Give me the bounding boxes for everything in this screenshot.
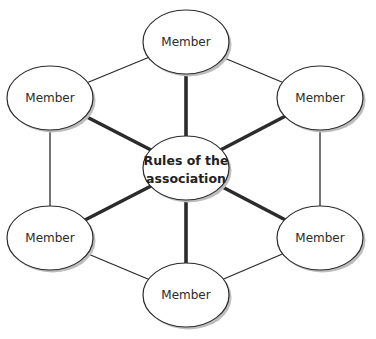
member-label: Member	[295, 231, 344, 245]
network-diagram: MemberMemberMemberMemberMemberMemberRule…	[0, 0, 376, 339]
rules-node: Rules of theassociation	[143, 136, 232, 203]
center-label-line: Rules of the	[144, 153, 229, 168]
nodes: MemberMemberMemberMemberMemberMemberRule…	[7, 10, 366, 330]
diagram-canvas: MemberMemberMemberMemberMemberMemberRule…	[0, 0, 376, 339]
member-label: Member	[161, 288, 210, 302]
member-node-bottom-left: Member	[7, 206, 96, 273]
member-label: Member	[295, 91, 344, 105]
member-label: Member	[25, 231, 74, 245]
member-node-top-right: Member	[277, 66, 366, 133]
member-node-bottom: Member	[143, 263, 232, 330]
center-label-line: association	[146, 171, 226, 186]
member-node-top-left: Member	[7, 66, 96, 133]
member-node-top: Member	[143, 10, 232, 77]
member-node-bottom-right: Member	[277, 206, 366, 273]
member-label: Member	[25, 91, 74, 105]
node-ellipse	[143, 136, 229, 200]
member-label: Member	[161, 35, 210, 49]
